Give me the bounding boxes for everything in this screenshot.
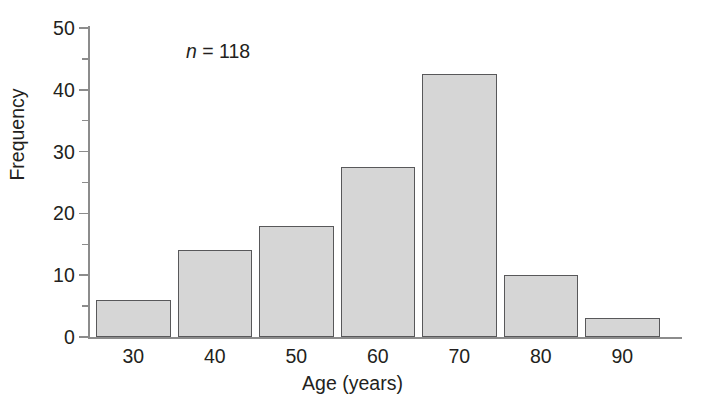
sample-size-value: = 118 — [197, 40, 250, 62]
x-axis-tick-label: 80 — [530, 345, 552, 368]
histogram-figure: 01020304050 Frequency 30405060708090 Age… — [0, 0, 705, 416]
x-axis-title: Age (years) — [0, 372, 705, 395]
y-axis-tick-label: 30 — [53, 140, 75, 163]
x-axis-tick-label: 40 — [204, 345, 226, 368]
histogram-bar — [259, 226, 334, 337]
y-axis-tick-major — [79, 151, 88, 153]
x-axis-tick-label: 50 — [285, 345, 307, 368]
y-axis-tick-major — [79, 336, 88, 338]
sample-size-annotation: n = 118 — [186, 40, 250, 63]
y-axis-tick-major — [79, 89, 88, 91]
x-axis-tick-label: 70 — [448, 345, 470, 368]
sample-size-symbol: n — [186, 40, 197, 62]
y-axis-tick-label: 20 — [53, 202, 75, 225]
y-axis-tick-label: 0 — [64, 326, 75, 349]
x-axis-tick-label: 60 — [367, 345, 389, 368]
plot-area — [88, 28, 680, 337]
histogram-bar — [422, 74, 497, 337]
histogram-bar — [96, 300, 171, 337]
histogram-bar — [585, 318, 660, 337]
y-axis-tick-label: 10 — [53, 264, 75, 287]
x-axis-tick-label: 90 — [611, 345, 633, 368]
y-axis-tick-label: 50 — [53, 17, 75, 40]
y-axis-tick-major — [79, 213, 88, 215]
y-axis-title: Frequency — [6, 35, 29, 235]
y-axis-tick-major — [79, 274, 88, 276]
histogram-bar — [504, 275, 579, 337]
histogram-bar — [178, 250, 253, 337]
x-axis-line — [88, 337, 682, 339]
histogram-bar — [341, 167, 416, 337]
y-axis-tick-major — [79, 27, 88, 29]
y-axis-tick-label: 40 — [53, 78, 75, 101]
x-axis-tick-label: 30 — [122, 345, 144, 368]
